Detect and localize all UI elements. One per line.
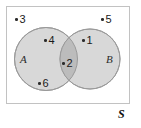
element-outside-5: 5 [101, 14, 112, 25]
element-b-only-1: 1 [82, 35, 93, 46]
element-value: 2 [67, 58, 73, 69]
element-a-only-4: 4 [44, 35, 55, 46]
set-b-label: B [106, 54, 113, 65]
element-dot-icon [15, 18, 18, 21]
element-a-only-6: 6 [38, 78, 49, 89]
element-dot-icon [44, 39, 47, 42]
element-outside-3: 3 [15, 14, 26, 25]
element-value: 3 [20, 14, 26, 25]
element-dot-icon [38, 82, 41, 85]
element-dot-icon [82, 39, 85, 42]
element-intersection-2: 2 [62, 58, 73, 69]
element-value: 6 [43, 78, 49, 89]
set-a-label: A [20, 54, 27, 65]
element-dot-icon [101, 18, 104, 21]
element-value: 4 [49, 35, 55, 46]
universal-set-label: S [118, 108, 125, 120]
venn-diagram-figure: A B 3 5 4 1 2 6 S [0, 0, 141, 128]
element-value: 5 [106, 14, 112, 25]
element-dot-icon [62, 62, 65, 65]
element-value: 1 [87, 35, 93, 46]
